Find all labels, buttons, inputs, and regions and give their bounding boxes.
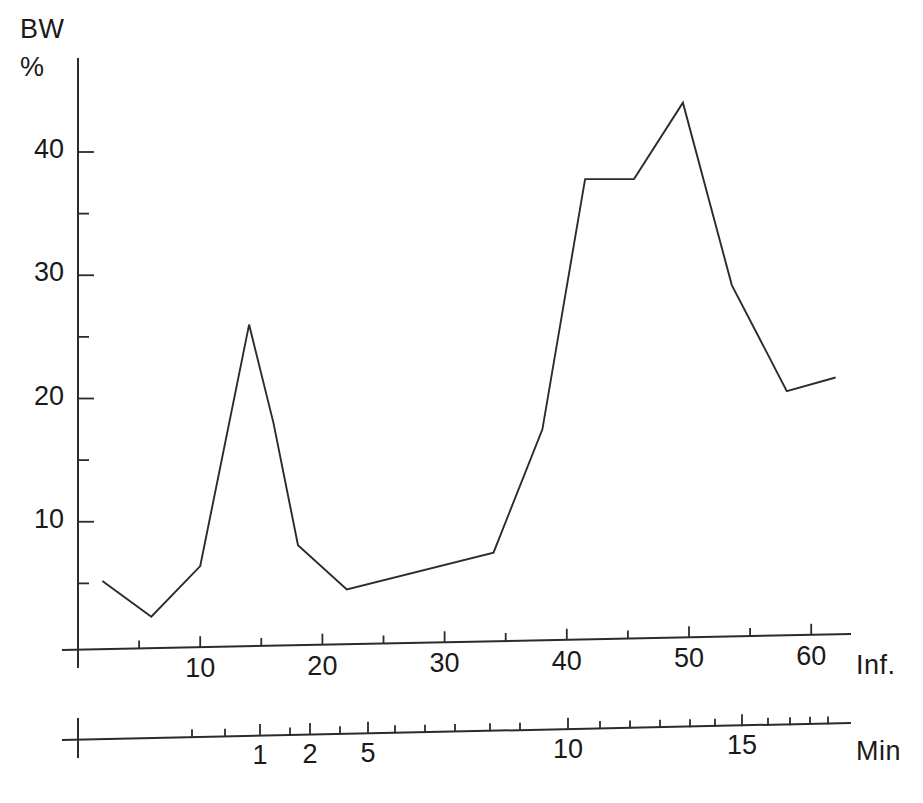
x2-tick-label-2: 2 bbox=[287, 739, 333, 770]
x-tick-label-10: 10 bbox=[177, 653, 223, 684]
x2-tick-label-5: 5 bbox=[345, 738, 391, 769]
y-tick-label-20: 20 bbox=[12, 381, 64, 412]
y-tick-label-10: 10 bbox=[12, 504, 64, 535]
y-axis-title-line2: % bbox=[20, 52, 45, 83]
x-axis-title-infusions: Inf. bbox=[856, 650, 896, 681]
y-tick-label-30: 30 bbox=[12, 257, 64, 288]
x-axis-title-minutes: Min bbox=[856, 736, 901, 767]
plot-area bbox=[0, 0, 923, 803]
chart-figure: BW % Inf. Min 10203040102030405060125101… bbox=[0, 0, 923, 803]
x2-tick-label-10: 10 bbox=[545, 734, 591, 765]
x2-tick-label-15: 15 bbox=[719, 730, 765, 761]
y-tick-label-40: 40 bbox=[12, 134, 64, 165]
x-tick-label-50: 50 bbox=[666, 643, 712, 674]
x-tick-label-40: 40 bbox=[544, 646, 590, 677]
x2-tick-label-1: 1 bbox=[237, 740, 283, 771]
data-series-bw-percent bbox=[102, 103, 835, 617]
x-tick-label-60: 60 bbox=[788, 641, 834, 672]
y-axis-title-line1: BW bbox=[20, 14, 65, 45]
y-axis-ticks bbox=[78, 152, 94, 583]
y-axis bbox=[78, 58, 94, 648]
x-tick-label-30: 30 bbox=[422, 648, 468, 679]
x-tick-label-20: 20 bbox=[299, 651, 345, 682]
